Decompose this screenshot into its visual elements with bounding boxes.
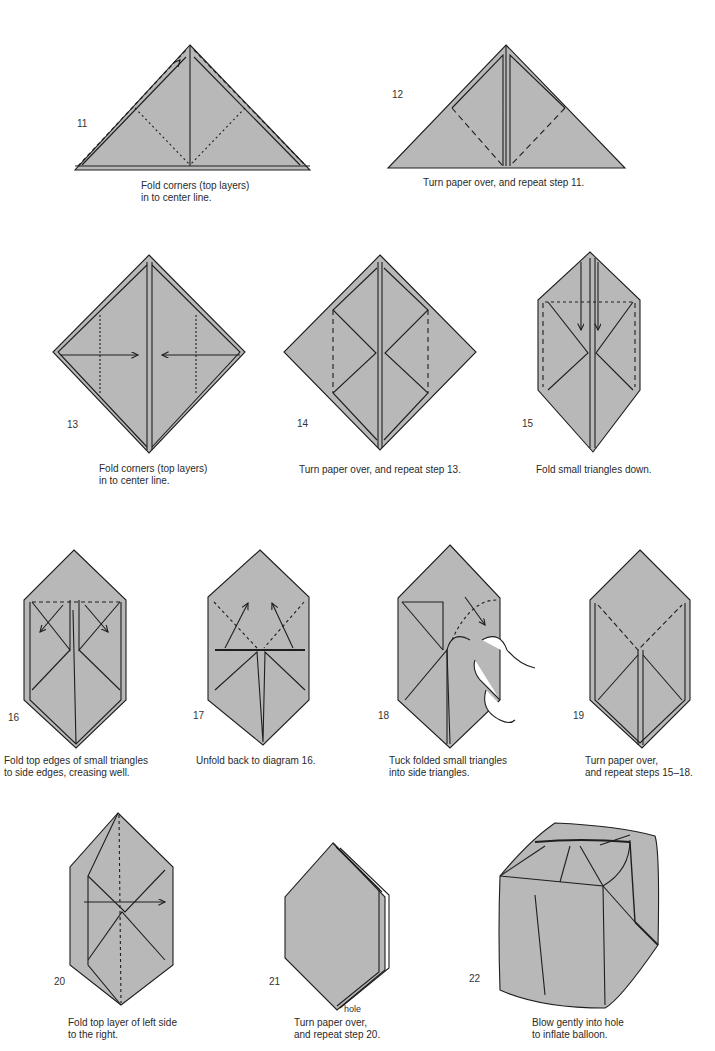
step-number: 14 [297, 418, 308, 429]
diagram-step-12 [388, 45, 625, 168]
step-caption: Fold top edges of small triangles to sid… [4, 755, 148, 778]
diagram-step-20 [70, 813, 173, 1005]
step-number: 11 [77, 118, 87, 129]
step-number: 15 [522, 418, 533, 429]
diagram-step-13 [53, 255, 245, 453]
step-caption: Tuck folded small triangles into side tr… [389, 755, 507, 778]
diagram-step-18 [398, 545, 535, 748]
step-number: 19 [573, 710, 584, 721]
step-number: 12 [392, 89, 403, 100]
hole-label: hole [344, 1004, 361, 1014]
diagram-step-16 [24, 550, 126, 748]
diagram-step-15 [538, 252, 640, 452]
step-number: 17 [193, 710, 204, 721]
step-caption: Turn paper over, and repeat step 20. [294, 1017, 380, 1040]
instruction-page: 11 Fold corners (top layers) in to cente… [0, 0, 715, 1051]
step-caption: Turn paper over, and repeat steps 15–18. [585, 755, 693, 778]
step-number: 13 [67, 419, 78, 430]
diagram-step-19 [590, 550, 690, 748]
diagram-step-14 [284, 255, 476, 450]
step-number: 22 [469, 973, 480, 984]
step-caption: Fold corners (top layers) in to center l… [99, 463, 207, 486]
step-caption: Fold corners (top layers) in to center l… [141, 180, 249, 203]
step-number: 21 [269, 976, 280, 987]
step-number: 16 [8, 712, 19, 723]
diagram-step-21 [285, 843, 389, 1010]
step-caption: Unfold back to diagram 16. [196, 755, 316, 767]
step-caption: Fold top layer of left side to the right… [68, 1017, 177, 1040]
step-caption: Turn paper over, and repeat step 13. [299, 464, 461, 476]
step-caption: Fold small triangles down. [536, 464, 652, 476]
step-number: 20 [54, 976, 65, 987]
diagram-step-17 [208, 550, 309, 745]
diagram-step-11 [75, 45, 310, 170]
step-number: 18 [378, 710, 389, 721]
step-caption: Turn paper over, and repeat step 11. [423, 177, 584, 189]
diagrams-canvas [0, 0, 715, 1051]
step-caption: Blow gently into hole to inflate balloon… [532, 1017, 624, 1040]
diagram-step-22 [499, 823, 659, 1008]
